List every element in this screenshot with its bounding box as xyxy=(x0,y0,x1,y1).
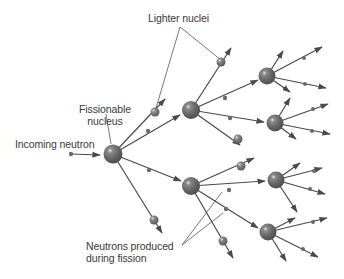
lighter-nuclei-leader xyxy=(156,27,221,108)
incoming-neutron-label: Incoming neutron xyxy=(15,138,95,150)
lighter-nuclei xyxy=(150,58,246,246)
fissionable-nuclei xyxy=(104,68,285,241)
incoming-neutron-dot xyxy=(69,152,73,156)
neutrons-produced-label: Neutrons produced during fission xyxy=(86,240,174,264)
neutrons-leader xyxy=(182,192,223,245)
fission-diagram: Lighter nuclei Fissionable nucleus Incom… xyxy=(0,0,344,279)
neutrons-label-line1: Neutrons produced xyxy=(86,240,174,252)
fissionable-nucleus-label: Fissionable nucleus xyxy=(70,103,140,127)
lighter-nuclei-label: Lighter nuclei xyxy=(148,12,209,24)
fissionable-label-line1: Fissionable xyxy=(70,103,140,115)
incoming-neutron-track xyxy=(71,154,100,155)
leader-lines xyxy=(106,27,223,245)
initial-fissionable-nucleus xyxy=(104,145,123,164)
neutrons-label-line2: during fission xyxy=(86,252,174,264)
fissionable-label-line2: nucleus xyxy=(70,115,140,127)
